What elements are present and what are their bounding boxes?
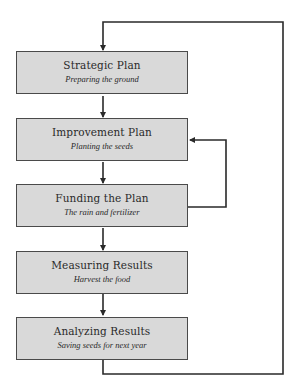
step-title: Strategic Plan	[17, 59, 187, 72]
step-improvement-plan: Improvement Plan Planting the seeds	[16, 118, 188, 161]
step-funding-the-plan: Funding the Plan The rain and fertilizer	[16, 184, 188, 227]
step-subtitle: Saving seeds for next year	[17, 340, 187, 351]
step-subtitle: Planting the seeds	[17, 141, 187, 152]
step-title: Improvement Plan	[17, 126, 187, 139]
step-subtitle: The rain and fertilizer	[17, 207, 187, 218]
step-title: Funding the Plan	[17, 192, 187, 205]
step-subtitle: Preparing the ground	[17, 74, 187, 85]
step-measuring-results: Measuring Results Harvest the food	[16, 251, 188, 294]
step-subtitle: Harvest the food	[17, 274, 187, 285]
step-analyzing-results: Analyzing Results Saving seeds for next …	[16, 317, 188, 360]
step-title: Analyzing Results	[17, 325, 187, 338]
step-strategic-plan: Strategic Plan Preparing the ground	[16, 51, 188, 94]
step-title: Measuring Results	[17, 259, 187, 272]
flowchart-diagram: Strategic Plan Preparing the ground Impr…	[0, 0, 297, 392]
feedback-loop-funding-to-improvement	[188, 140, 226, 207]
